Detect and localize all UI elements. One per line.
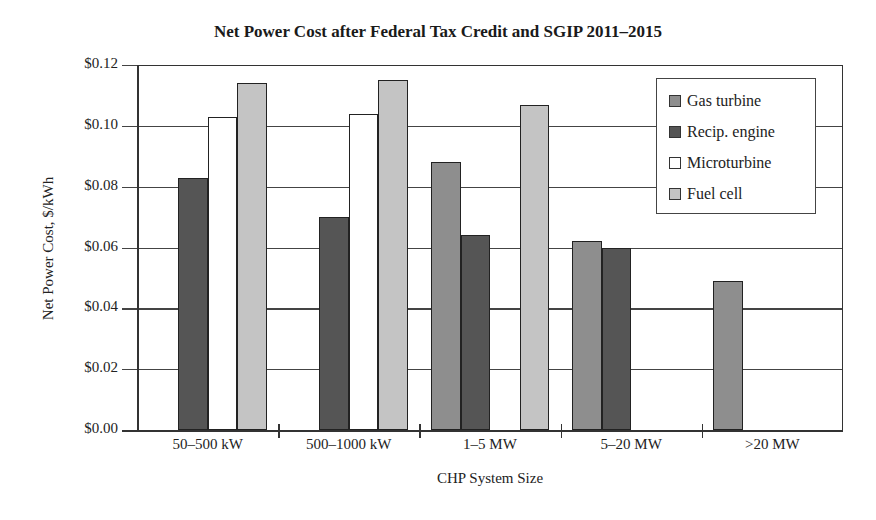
chart-title: Net Power Cost after Federal Tax Credit … <box>0 22 876 42</box>
legend-item: Fuel cell <box>669 178 815 209</box>
legend-swatch-icon <box>669 157 681 169</box>
bar-gas-turbine <box>713 281 743 430</box>
x-axis-label: CHP System Size <box>137 470 843 487</box>
bar-recip-engine <box>178 178 208 430</box>
x-category-label: 500–1000 kW <box>278 436 419 453</box>
bar-microturbine <box>349 114 379 430</box>
legend-label: Microturbine <box>687 154 771 172</box>
y-tick-label: $0.02 <box>40 359 118 376</box>
legend-item: Recip. engine <box>669 116 815 147</box>
legend-swatch-icon <box>669 126 681 138</box>
legend-swatch-icon <box>669 188 681 200</box>
bar-microturbine <box>208 117 238 430</box>
bar-fuel-cell <box>520 105 550 430</box>
bar-gas-turbine <box>572 241 602 430</box>
bar-fuel-cell <box>378 80 408 430</box>
legend-item: Microturbine <box>669 147 815 178</box>
legend-label: Gas turbine <box>687 92 761 110</box>
y-axis <box>137 65 139 432</box>
legend-item: Gas turbine <box>669 85 815 116</box>
x-category-label: >20 MW <box>702 436 843 453</box>
x-category-label: 50–500 kW <box>137 436 278 453</box>
legend-label: Recip. engine <box>687 123 775 141</box>
x-axis <box>122 430 843 432</box>
bar-gas-turbine <box>431 162 461 430</box>
x-category-label: 5–20 MW <box>561 436 702 453</box>
y-tick-label: $0.12 <box>40 55 118 72</box>
y-tick-label: $0.10 <box>40 116 118 133</box>
y-axis-label: Net Power Cost, $/kWh <box>40 139 57 359</box>
y-tick-label: $0.00 <box>40 420 118 437</box>
legend: Gas turbineRecip. engineMicroturbineFuel… <box>656 78 816 214</box>
bar-recip-engine <box>319 217 349 430</box>
bar-fuel-cell <box>237 83 267 430</box>
x-category-label: 1–5 MW <box>419 436 560 453</box>
legend-swatch-icon <box>669 95 681 107</box>
bar-recip-engine <box>602 248 632 431</box>
legend-label: Fuel cell <box>687 185 743 203</box>
bar-recip-engine <box>461 235 491 430</box>
